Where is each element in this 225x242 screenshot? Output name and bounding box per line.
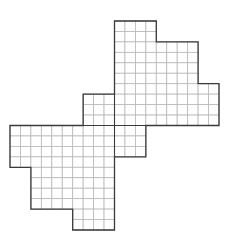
polyomino-figure	[0, 0, 225, 242]
grid-cell	[188, 105, 198, 115]
grid-cell	[104, 199, 114, 209]
grid-cell	[156, 52, 166, 62]
grid-cell	[104, 178, 114, 188]
grid-cell	[188, 115, 198, 125]
grid-cell	[94, 220, 104, 230]
grid-cell	[146, 42, 156, 52]
grid-cell	[94, 188, 104, 198]
grid-cell	[209, 105, 219, 115]
grid-cell	[146, 31, 156, 41]
grid-cell	[156, 84, 166, 94]
grid-cell	[94, 209, 104, 219]
grid-cell	[167, 84, 177, 94]
grid-cell	[146, 84, 156, 94]
grid-cell	[125, 126, 135, 136]
grid-cell	[125, 105, 135, 115]
grid-cell	[83, 209, 93, 219]
grid-cell	[188, 84, 198, 94]
grid-cell	[94, 136, 104, 146]
grid-cell	[94, 105, 104, 115]
grid-cell	[125, 31, 135, 41]
grid-cell	[94, 167, 104, 177]
grid-cell	[104, 209, 114, 219]
grid-cell	[125, 63, 135, 73]
grid-cell	[73, 146, 83, 156]
grid-cell	[177, 105, 187, 115]
grid-cell	[115, 94, 125, 104]
grid-cell	[177, 42, 187, 52]
grid-cell	[209, 94, 219, 104]
grid-cell	[115, 52, 125, 62]
grid-cell	[115, 126, 125, 136]
grid-cell	[135, 94, 145, 104]
grid-cell	[31, 167, 41, 177]
grid-cell	[73, 157, 83, 167]
grid-cell	[135, 52, 145, 62]
grid-cell	[115, 84, 125, 94]
grid-cell	[125, 52, 135, 62]
grid-cell	[94, 115, 104, 125]
grid-cell	[62, 167, 72, 177]
grid-cell	[83, 105, 93, 115]
grid-cell	[135, 105, 145, 115]
grid-cell	[41, 126, 51, 136]
grid-cell	[146, 63, 156, 73]
grid-cell	[198, 84, 208, 94]
grid-cell	[104, 126, 114, 136]
grid-cell	[10, 157, 20, 167]
grid-cell	[115, 105, 125, 115]
grid-cell	[188, 73, 198, 83]
grid-cell	[146, 105, 156, 115]
grid-cell	[83, 220, 93, 230]
grid-cell	[104, 167, 114, 177]
grid-cell	[104, 157, 114, 167]
grid-cell	[135, 31, 145, 41]
grid-cell	[62, 126, 72, 136]
grid-cell	[188, 63, 198, 73]
grid-cell	[31, 188, 41, 198]
grid-cell	[10, 126, 20, 136]
grid-cell	[62, 188, 72, 198]
grid-cell	[167, 52, 177, 62]
grid-cell	[62, 199, 72, 209]
grid-cell	[177, 115, 187, 125]
grid-cell	[115, 115, 125, 125]
grid-cell	[41, 199, 51, 209]
grid-cell	[198, 115, 208, 125]
grid-cell	[73, 178, 83, 188]
grid-cell	[83, 167, 93, 177]
grid-cell	[167, 63, 177, 73]
grid-cell	[73, 136, 83, 146]
grid-cell	[104, 94, 114, 104]
grid-cell	[104, 136, 114, 146]
grid-cell	[31, 126, 41, 136]
grid-cell	[125, 84, 135, 94]
grid-cell	[156, 42, 166, 52]
grid-cell	[167, 42, 177, 52]
grid-cell	[135, 136, 145, 146]
grid-cell	[94, 146, 104, 156]
grid-cell	[83, 188, 93, 198]
grid-cell	[52, 136, 62, 146]
grid-cell	[135, 63, 145, 73]
grid-cell	[31, 199, 41, 209]
grid-cell	[73, 220, 83, 230]
grid-cell	[83, 94, 93, 104]
grid-cell	[20, 157, 30, 167]
grid-cell	[156, 63, 166, 73]
grid-cell	[52, 199, 62, 209]
grid-cell	[10, 146, 20, 156]
grid-cell	[135, 146, 145, 156]
grid-cell	[83, 146, 93, 156]
grid-cell	[10, 136, 20, 146]
grid-cell	[104, 115, 114, 125]
grid-cell	[188, 94, 198, 104]
grid-cell	[94, 199, 104, 209]
grid-cell	[135, 84, 145, 94]
grid-cell	[73, 167, 83, 177]
grid-cell	[156, 94, 166, 104]
grid-cell	[73, 199, 83, 209]
grid-cell	[94, 178, 104, 188]
grid-cell	[41, 188, 51, 198]
grid-cell	[146, 73, 156, 83]
